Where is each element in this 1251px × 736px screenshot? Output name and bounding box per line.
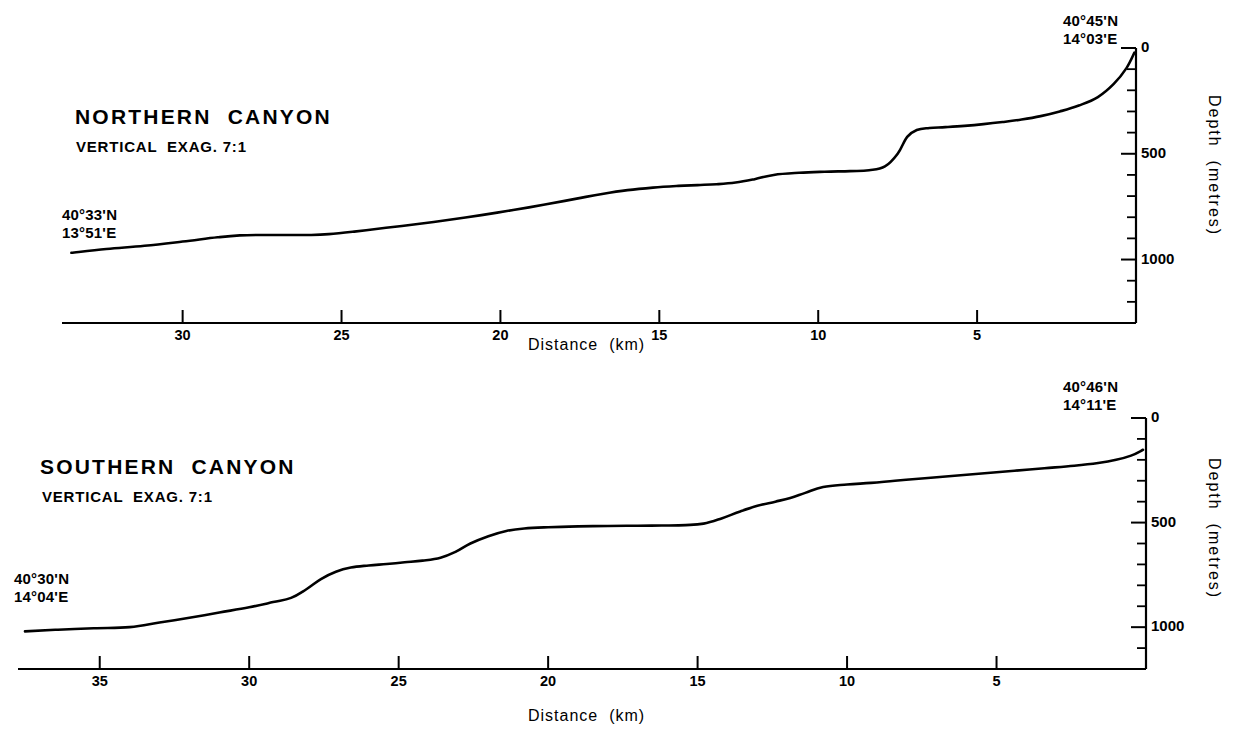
northern-coord-left-lat: 40°33'N bbox=[62, 206, 117, 223]
northern-canyon-panel: NORTHERN CANYON VERTICAL EXAG. 7:1 40°33… bbox=[0, 0, 1251, 370]
northern-canyon-title: NORTHERN CANYON bbox=[75, 105, 332, 129]
southern-coord-right: 40°46'N14°11'E bbox=[1063, 378, 1118, 413]
south-x-tick-label: 25 bbox=[391, 673, 407, 689]
south-x-tick-label: 10 bbox=[839, 673, 855, 689]
south-x-tick-label: 35 bbox=[92, 673, 108, 689]
southern-coord-right-lat: 40°46'N bbox=[1063, 378, 1118, 395]
south-x-tick-label: 20 bbox=[540, 673, 556, 689]
northern-coord-left: 40°33'N13°51'E bbox=[62, 206, 117, 241]
south-y-tick-label: 0 bbox=[1151, 408, 1159, 425]
north-x-tick-label: 30 bbox=[175, 327, 191, 343]
southern-canyon-title: SOUTHERN CANYON bbox=[40, 455, 296, 479]
north-x-tick-label: 5 bbox=[973, 327, 981, 343]
southern-coord-left: 40°30'N14°04'E bbox=[14, 570, 69, 605]
southern-coord-right-lon: 14°11'E bbox=[1063, 396, 1117, 413]
north-axis-lines bbox=[62, 48, 1136, 323]
north-y-tick-label: 500 bbox=[1141, 144, 1166, 161]
south-y-tick-label: 1000 bbox=[1151, 617, 1184, 634]
south-y-tick-label: 500 bbox=[1151, 513, 1176, 530]
northern-x-axis-title: Distance (km) bbox=[528, 336, 645, 354]
southern-coord-left-lat: 40°30'N bbox=[14, 570, 69, 587]
northern-y-axis-title: Depth (metres) bbox=[1205, 95, 1223, 236]
southern-y-axis-title: Depth (metres) bbox=[1205, 458, 1223, 599]
south-x-tick-label: 30 bbox=[241, 673, 257, 689]
south-x-tick-label: 15 bbox=[690, 673, 706, 689]
north-y-tick-label: 0 bbox=[1141, 38, 1149, 55]
north-y-tick-label: 1000 bbox=[1141, 250, 1174, 267]
northern-coord-right: 40°45'N14°03'E bbox=[1063, 12, 1118, 47]
southern-coord-left-lon: 14°04'E bbox=[14, 588, 68, 605]
north-x-tick-label: 10 bbox=[810, 327, 826, 343]
north-x-tick-label: 25 bbox=[333, 327, 349, 343]
northern-coord-left-lon: 13°51'E bbox=[62, 224, 116, 241]
northern-canyon-plot bbox=[0, 0, 1251, 370]
northern-coord-right-lon: 14°03'E bbox=[1063, 30, 1117, 47]
north-x-tick-label: 15 bbox=[651, 327, 667, 343]
southern-x-axis-title: Distance (km) bbox=[528, 707, 645, 725]
northern-canyon-exaggeration: VERTICAL EXAG. 7:1 bbox=[76, 138, 247, 155]
northern-coord-right-lat: 40°45'N bbox=[1063, 12, 1118, 29]
southern-canyon-exaggeration: VERTICAL EXAG. 7:1 bbox=[42, 488, 213, 505]
north-x-tick-label: 20 bbox=[492, 327, 508, 343]
southern-canyon-plot bbox=[0, 370, 1251, 736]
southern-canyon-panel: SOUTHERN CANYON VERTICAL EXAG. 7:1 40°30… bbox=[0, 370, 1251, 736]
south-x-tick-label: 5 bbox=[992, 673, 1000, 689]
